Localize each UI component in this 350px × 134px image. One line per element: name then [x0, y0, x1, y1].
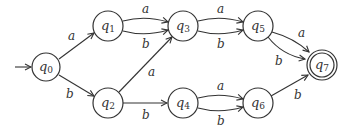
state-q4: q4	[168, 88, 198, 118]
edge-label: b	[66, 87, 74, 101]
state-q7-accepting: q7	[307, 50, 337, 80]
edge-q6-q7	[271, 75, 308, 96]
state-q1: q1	[93, 11, 123, 41]
edge-label: a	[298, 26, 305, 40]
edge-q3-q5-a	[198, 18, 243, 22]
edge-q0-q2	[59, 75, 94, 96]
edge-label: a	[217, 2, 224, 16]
edge-label: a	[148, 65, 155, 79]
edge-label: b	[275, 54, 283, 68]
automaton-diagram: a b a b a b a b a b a b b q0 q1 q2 q3	[0, 0, 350, 134]
edge-q0-q1	[59, 33, 94, 59]
state-q5: q5	[243, 11, 273, 41]
edge-label: b	[142, 108, 150, 122]
state-q0: q0	[32, 53, 60, 81]
edge-q4-q6-a	[198, 95, 243, 99]
edge-q1-q3-a	[123, 18, 168, 22]
edge-q5-q7-b	[268, 37, 305, 59]
edge-label: a	[217, 79, 224, 93]
edge-q3-q5-b	[198, 30, 243, 34]
state-q2: q2	[93, 88, 123, 118]
state-q6: q6	[243, 88, 273, 118]
edge-label: b	[217, 37, 225, 51]
edge-q4-q6-b	[198, 107, 243, 111]
edge-label: a	[142, 2, 149, 16]
edge-label: b	[217, 114, 225, 128]
edge-label: a	[68, 29, 75, 43]
state-q3: q3	[168, 11, 198, 41]
edge-label: b	[294, 88, 302, 102]
edge-q1-q3-b	[123, 30, 168, 34]
edge-label: b	[142, 37, 150, 51]
